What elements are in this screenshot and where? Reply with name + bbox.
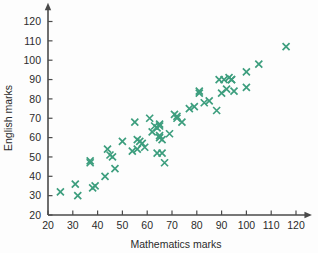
chart-canvas: 2030405060708090100110120 20304050607080…: [0, 0, 318, 253]
y-tick-label: 120: [23, 15, 41, 27]
x-tick-label: 50: [117, 219, 129, 231]
y-tick-label: 60: [29, 131, 41, 143]
x-tick-label: 40: [92, 219, 104, 231]
x-tick-label: 70: [166, 219, 178, 231]
x-tick-label: 30: [67, 219, 79, 231]
data-point-marker: [92, 182, 99, 189]
y-tick-label: 110: [24, 35, 41, 47]
x-tick-label: 80: [191, 219, 203, 231]
x-tick-label: 90: [216, 219, 228, 231]
data-point-marker: [111, 165, 118, 172]
data-point-marker: [243, 68, 250, 75]
x-axis-ticks: 2030405060708090100110120: [42, 211, 305, 232]
data-point-marker: [131, 119, 138, 126]
data-point-marker: [283, 43, 290, 50]
data-point-marker: [72, 181, 79, 188]
data-point-marker: [231, 88, 238, 95]
data-point-marker: [243, 84, 250, 91]
y-tick-label: 30: [29, 189, 41, 201]
y-tick-label: 80: [29, 93, 41, 105]
data-point-marker: [255, 61, 262, 68]
data-point-marker: [213, 107, 220, 114]
data-point-marker: [57, 188, 64, 195]
data-point-marker: [178, 119, 185, 126]
y-tick-label: 90: [29, 73, 41, 85]
y-tick-label: 40: [29, 170, 41, 182]
data-point-marker: [102, 173, 109, 180]
data-point-marker: [74, 192, 81, 199]
x-tick-label: 20: [42, 219, 54, 231]
data-points: [57, 43, 290, 199]
data-point-marker: [166, 130, 173, 137]
x-axis-arrow: [304, 212, 312, 218]
y-tick-label: 100: [23, 54, 41, 66]
data-point-marker: [109, 153, 116, 160]
y-tick-label: 50: [29, 151, 41, 163]
x-tick-label: 120: [287, 219, 305, 231]
x-axis-label: Mathematics marks: [130, 238, 221, 250]
y-tick-label: 70: [29, 112, 41, 124]
scatter-plot-figure: 2030405060708090100110120 20304050607080…: [0, 0, 318, 253]
axes: [45, 3, 312, 218]
y-tick-label: 20: [29, 209, 41, 221]
y-axis-arrow: [45, 3, 51, 11]
x-tick-label: 110: [263, 219, 280, 231]
data-point-marker: [223, 86, 230, 93]
data-point-marker: [119, 138, 126, 145]
y-axis-label: English marks: [2, 85, 14, 151]
data-point-marker: [161, 159, 168, 166]
x-tick-label: 60: [141, 219, 153, 231]
x-tick-label: 100: [238, 219, 256, 231]
data-point-marker: [228, 76, 235, 83]
data-point-marker: [159, 150, 166, 157]
data-point-marker: [146, 115, 153, 122]
